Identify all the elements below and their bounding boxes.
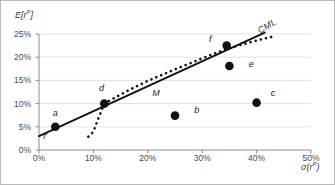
y-axis-tick-group: 0%5%10%15%20%25%	[1, 1, 35, 185]
x-axis-tick-label: 10%	[85, 153, 102, 163]
capital-market-line	[39, 33, 265, 136]
efficient-frontier-lower	[86, 104, 104, 138]
y-axis-tick-label: 20%	[1, 52, 31, 62]
y-axis-tick-label: 5%	[1, 122, 31, 132]
data-point-a[interactable]	[51, 123, 60, 132]
x-axis-tick-label: 30%	[194, 153, 211, 163]
y-axis-tick-label: 15%	[1, 75, 31, 85]
data-point-f[interactable]	[222, 41, 231, 50]
point-label-d: d	[99, 83, 104, 93]
data-point-e[interactable]	[225, 62, 234, 71]
chart-figure: E[rP] σ(rP) 0%5%10%15%20%25% 0%10%20%30%…	[0, 0, 335, 185]
x-axis-tick-label: 20%	[139, 153, 156, 163]
x-axis-label-close: )	[316, 162, 319, 172]
x-axis-label-base: σ(r	[301, 162, 312, 172]
data-point-d[interactable]	[100, 99, 109, 108]
point-label-b: b	[194, 105, 199, 115]
data-point-b[interactable]	[171, 111, 180, 120]
data-point-c[interactable]	[252, 98, 261, 107]
y-axis-tick-label: 0%	[1, 145, 31, 155]
point-label-f: f	[209, 34, 212, 44]
risk-free-rate-label: rf	[43, 130, 48, 141]
market-portfolio-label: M	[152, 88, 160, 98]
plot-area: adbcefMCMLrf	[39, 34, 311, 150]
x-axis-tick-label: 0%	[33, 153, 45, 163]
y-axis-tick-label: 25%	[1, 29, 31, 39]
y-axis-tick-label: 10%	[1, 99, 31, 109]
cml-line-label: CML	[256, 16, 278, 35]
point-label-e: e	[249, 59, 254, 69]
point-label-c: c	[271, 88, 276, 98]
risk-free-rate-label-superscript: f	[46, 130, 48, 136]
x-axis-tick-label: 50%	[302, 153, 319, 163]
x-axis-tick-label: 40%	[248, 153, 265, 163]
point-label-a: a	[53, 108, 58, 118]
